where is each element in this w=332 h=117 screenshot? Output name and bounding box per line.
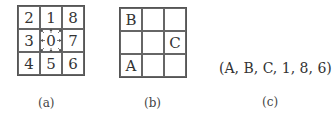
caption-b: (b) [144,96,161,110]
caption-a: (a) [38,96,55,110]
caption-c: (c) [262,95,278,109]
grid-b-cell: B [120,8,142,31]
grid-a-cell: 1 [40,6,62,29]
grid-b-cell: C [164,31,186,54]
grid-a-cell: 7 [62,29,84,52]
grid-b-cell [142,8,164,31]
grid-b-cell [120,31,142,54]
grid-a-cell: 8 [62,6,84,29]
neighbor-index-grid: 2 1 8 3 0 7 4 5 6 [17,5,85,76]
grid-b-cell [142,54,164,77]
grid-b-cell [142,31,164,54]
grid-a-cell: 2 [18,6,40,29]
labeled-grid: B C A [119,7,187,78]
grid-b-cell [164,54,186,77]
sequence-tuple: (A, B, C, 1, 8, 6) [219,60,332,76]
grid-a-cell: 5 [40,52,62,75]
grid-a-cell: 6 [62,52,84,75]
grid-b-cell: A [120,54,142,77]
grid-a-cell: 3 [18,29,40,52]
grid-a-cell: 4 [18,52,40,75]
grid-b-cell [164,8,186,31]
grid-a-center-cell: 0 [40,29,62,52]
